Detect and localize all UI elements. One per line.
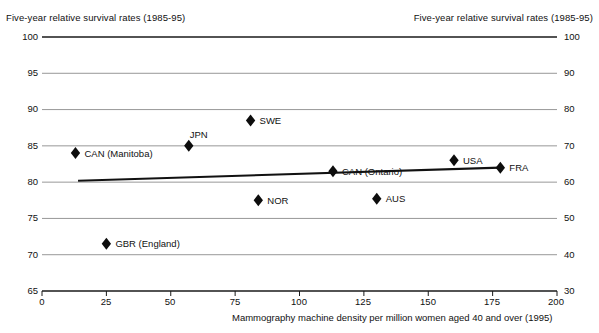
chart-plot-svg: CAN (Manitoba)GBR (England)JPNSWENORCAN …	[0, 0, 599, 333]
data-point-label: AUS	[386, 193, 406, 204]
data-point-label: USA	[463, 155, 483, 166]
data-point-label: NOR	[267, 195, 288, 206]
data-point-label: JPN	[190, 129, 208, 140]
data-point-label: CAN (Manitoba)	[84, 148, 152, 159]
x-tickmarks	[42, 291, 557, 296]
data-marker	[184, 140, 193, 152]
data-marker	[71, 147, 80, 159]
data-marker	[496, 162, 505, 174]
chart-container: Five-year relative survival rates (1985-…	[0, 0, 599, 333]
data-point-label: CAN (Ontario)	[342, 166, 402, 177]
data-point-label: SWE	[260, 115, 282, 126]
data-marker	[328, 165, 337, 177]
data-marker	[254, 194, 263, 206]
data-marker	[246, 114, 255, 126]
data-point-label: FRA	[509, 162, 529, 173]
data-marker	[372, 193, 381, 205]
trendline	[78, 168, 500, 181]
data-point-label: GBR (England)	[115, 238, 179, 249]
data-marker	[102, 238, 111, 250]
data-marker	[449, 154, 458, 166]
